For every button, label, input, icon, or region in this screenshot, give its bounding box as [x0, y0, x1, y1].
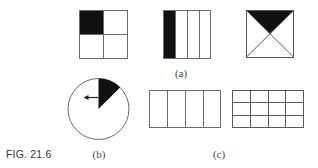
circle-sector — [68, 78, 129, 139]
square-diagonals — [246, 11, 294, 58]
shaded-strip — [163, 10, 176, 59]
shaded-sector — [99, 78, 121, 109]
shaded-quarter — [79, 10, 104, 35]
panel-label-c: (c) — [213, 149, 225, 160]
panel-label-a: (a) — [175, 68, 187, 79]
rectangle-grid — [233, 91, 304, 128]
square-vertical-strips — [163, 10, 211, 59]
figure-caption: FIG. 21.6 — [6, 149, 52, 160]
rectangle-four-columns — [150, 91, 221, 128]
figure: (a) (b) (c) FIG. 21.6 — [0, 0, 318, 168]
figure-drawing — [0, 0, 318, 168]
square-quarters — [79, 10, 128, 59]
shaded-triangle — [246, 11, 294, 34]
arrow-left-icon — [84, 95, 89, 100]
panel-label-b: (b) — [93, 149, 106, 160]
